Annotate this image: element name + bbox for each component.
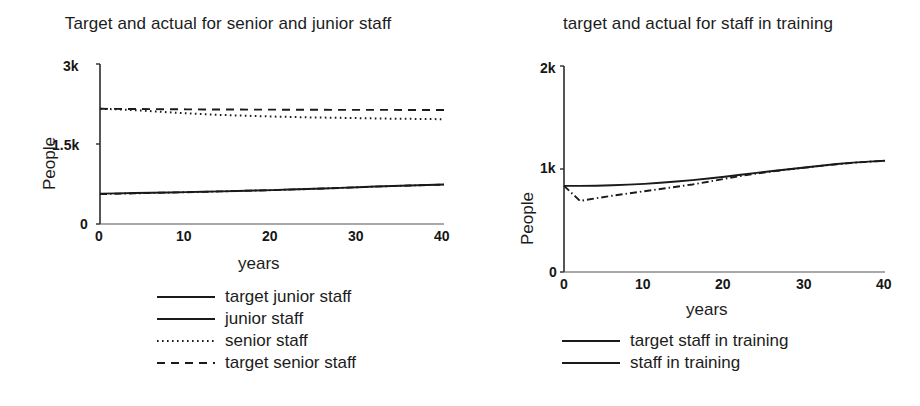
chart-panel-staff-in-training: target and actual for staff in training …: [460, 0, 920, 406]
legend-key-dashdot-icon: [560, 356, 622, 370]
chart-panel-senior-junior: Target and actual for senior and junior …: [0, 0, 460, 406]
legend-item-target-senior-staff: target senior staff: [155, 352, 356, 374]
x-tick-40-left: 40: [434, 228, 450, 244]
legend-item-senior-staff: senior staff: [155, 330, 356, 352]
legend-label: target senior staff: [225, 353, 356, 373]
x-tick-0-left: 0: [95, 228, 103, 244]
x-tick-10-left: 10: [176, 228, 192, 244]
series-group-left: [100, 109, 444, 194]
legend-label: senior staff: [225, 331, 308, 351]
legend-label: target junior staff: [225, 287, 351, 307]
x-axis-label-left: years: [238, 254, 280, 274]
legend-key-dashed-icon: [155, 356, 217, 370]
legend-label: junior staff: [225, 309, 303, 329]
legend-key-solid-icon: [155, 290, 217, 304]
x-tick-40-right: 40: [876, 276, 892, 292]
series-line-staff-in-training: [564, 161, 885, 201]
legend-right: target staff in trainingstaff in trainin…: [560, 330, 788, 374]
legend-key-dotted-icon: [155, 334, 217, 348]
x-tick-0-right: 0: [560, 276, 568, 292]
series-line-target-senior-staff: [100, 109, 444, 110]
x-axis-label-right: years: [686, 300, 728, 320]
legend-left: target junior staffjunior staffsenior st…: [155, 286, 356, 374]
series-group-right: [564, 161, 885, 201]
legend-key-solid-icon: [560, 334, 622, 348]
x-tick-20-left: 20: [262, 228, 278, 244]
x-tick-30-right: 30: [796, 276, 812, 292]
legend-label: staff in training: [630, 353, 740, 373]
legend-item-staff-in-training: staff in training: [560, 352, 788, 374]
x-tick-30-left: 30: [348, 228, 364, 244]
legend-label: target staff in training: [630, 331, 788, 351]
legend-item-target-junior-staff: target junior staff: [155, 286, 356, 308]
x-tick-20-right: 20: [715, 276, 731, 292]
legend-item-junior-staff: junior staff: [155, 308, 356, 330]
legend-key-dashdot-icon: [155, 312, 217, 326]
x-tick-10-right: 10: [635, 276, 651, 292]
legend-item-target-staff-in-training: target staff in training: [560, 330, 788, 352]
